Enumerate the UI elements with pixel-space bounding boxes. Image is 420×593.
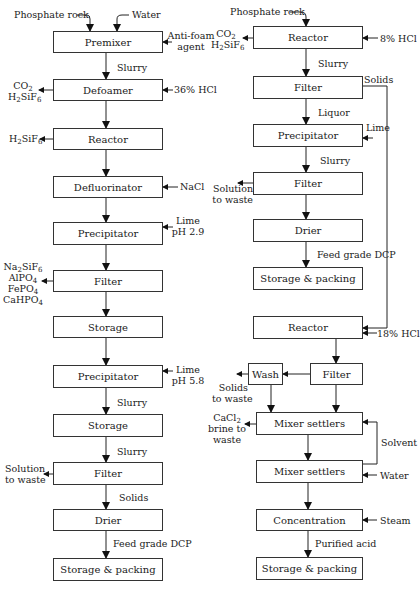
left-filter-2: Filter xyxy=(53,462,163,485)
right-mixer-settlers-2: Mixer settlers xyxy=(256,460,363,483)
right-reactor-2: Reactor xyxy=(253,316,363,339)
right-filter-1: Filter xyxy=(253,76,363,99)
label-solids-r: Solids xyxy=(364,74,393,85)
label-solids-to-waste: Solids to waste xyxy=(212,382,248,404)
label-slurry-r2: Slurry xyxy=(320,155,350,166)
left-drier: Drier xyxy=(53,509,163,531)
label-co2-h2sif6-left: CO2H2SiF6 xyxy=(8,80,38,102)
label-lime-ph29: Lime pH 2.9 xyxy=(170,215,206,237)
label-nacl: NaCl xyxy=(180,181,204,192)
left-input-water: Water xyxy=(132,9,161,20)
label-slurry-2: Slurry xyxy=(117,397,147,408)
label-slurry-1: Slurry xyxy=(117,62,147,73)
label-slurry-r1: Slurry xyxy=(318,58,348,69)
right-storage-packing-2: Storage & packing xyxy=(256,557,363,580)
label-slurry-3: Slurry xyxy=(117,446,147,457)
left-premixer: Premixer xyxy=(53,31,163,53)
label-feed-dcp-right: Feed grade DCP xyxy=(317,249,396,260)
label-solvent: Solvent xyxy=(381,437,417,448)
label-h2sif6: H2SiF6 xyxy=(9,133,42,144)
label-cacl2-brine: CaCl2brine towaste xyxy=(207,412,247,445)
label-solution-waste-right: Solution to waste xyxy=(208,183,253,205)
left-precipitator-1: Precipitator xyxy=(53,222,163,245)
label-feed-dcp-left: Feed grade DCP xyxy=(113,538,192,549)
right-drier: Drier xyxy=(253,219,363,242)
label-hcl-36: 36% HCl xyxy=(174,84,217,95)
label-solids-waste-1: Solids xyxy=(212,382,248,393)
label-ph29: pH 2.9 xyxy=(170,226,206,237)
right-precipitator: Precipitator xyxy=(253,124,363,147)
label-lime-r: Lime xyxy=(366,122,390,133)
right-reactor-1: Reactor xyxy=(253,26,363,49)
label-hcl-18: 18% HCl xyxy=(377,328,420,339)
label-solids-left: Solids xyxy=(119,492,148,503)
label-solution-right-1: Solution xyxy=(208,183,253,194)
label-liquor: Liquor xyxy=(318,107,350,118)
label-water-r: Water xyxy=(380,470,409,481)
left-reactor: Reactor xyxy=(53,128,163,150)
label-anti-foam-line1: Anti-foam xyxy=(166,30,216,41)
left-defluorinator: Defluorinator xyxy=(53,176,163,198)
label-solution-waste-left: Solution to waste xyxy=(5,463,46,485)
label-lime-2: Lime xyxy=(170,364,206,375)
label-solution-left-1: Solution xyxy=(5,463,46,474)
label-anti-foam-line2: agent xyxy=(166,41,216,52)
left-storage-1: Storage xyxy=(53,316,163,338)
left-defoamer: Defoamer xyxy=(53,79,163,101)
label-brine-2: brine to xyxy=(208,423,246,434)
label-filter-precipitates: Na2SiF6AlPO4FePO4CaHPO4 xyxy=(3,261,43,305)
right-concentration: Concentration xyxy=(256,509,363,531)
right-wash: Wash xyxy=(248,363,283,385)
label-anti-foam: Anti-foam agent xyxy=(166,30,216,52)
label-solution-left-2: to waste xyxy=(5,474,46,485)
label-hcl-8: 8% HCl xyxy=(380,33,417,44)
right-mixer-settlers-1: Mixer settlers xyxy=(256,412,363,435)
label-brine-3: waste xyxy=(213,434,241,445)
left-input-phosphate-rock: Phosphate rock xyxy=(14,9,89,20)
label-purified-acid: Purified acid xyxy=(315,538,376,549)
right-filter-2: Filter xyxy=(253,172,363,195)
label-ph58: pH 5.8 xyxy=(170,375,206,386)
right-filter-3: Filter xyxy=(310,363,363,385)
left-precipitator-2: Precipitator xyxy=(53,365,163,388)
label-steam: Steam xyxy=(380,515,411,526)
right-storage-packing-1: Storage & packing xyxy=(253,267,363,290)
left-filter-1: Filter xyxy=(53,270,163,292)
left-storage-2: Storage xyxy=(53,414,163,437)
label-co2-h2sif6-right: CO2H2SiF6 xyxy=(211,28,241,50)
label-solution-right-2: to waste xyxy=(208,194,253,205)
left-storage-packing: Storage & packing xyxy=(53,558,163,581)
right-input-phosphate-rock: Phosphate rock xyxy=(230,6,305,17)
label-lime-ph58: Lime pH 5.8 xyxy=(170,364,206,386)
label-solids-waste-2: to waste xyxy=(212,393,248,404)
label-lime-1: Lime xyxy=(170,215,206,226)
